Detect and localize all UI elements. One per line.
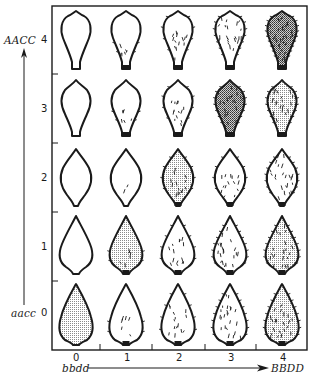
leaf-r4-c1: [111, 11, 140, 69]
y-tick-4: 4: [41, 35, 47, 45]
leaf-base: [227, 132, 234, 136]
leaf-r0-c0: [59, 284, 92, 345]
leaf-r4-c4: [265, 11, 299, 69]
leaf-r0-c4: [263, 284, 301, 345]
x-axis-left-label: bbdd: [62, 363, 90, 373]
leaf-r1-c0: [60, 216, 93, 274]
leaf-base: [227, 65, 234, 69]
leaf-blade: [213, 284, 246, 345]
leaf-r4-c3: [213, 11, 247, 69]
leaf-r3-c4: [265, 80, 299, 136]
y-axis-arrow: [21, 48, 27, 305]
leaf-base: [175, 132, 182, 136]
x-tick-3: 3: [228, 353, 234, 363]
leaf-blade: [59, 284, 92, 345]
leaf-r4-c0: [61, 11, 90, 69]
leaf-blade: [111, 11, 140, 69]
y-tick-2: 2: [41, 173, 47, 183]
y-axis-top-label: AACC: [4, 35, 36, 45]
leaf-r1-c2: [160, 216, 197, 274]
leaf-r2-c4: [265, 149, 300, 206]
leaf-r4-c2: [161, 11, 195, 69]
y-tick-1: 1: [41, 242, 47, 252]
leaf-base: [175, 65, 182, 69]
leaf-blade: [215, 11, 244, 69]
x-tick-2: 2: [176, 353, 182, 363]
leaf-blade: [163, 11, 192, 69]
diagram-canvas: [0, 0, 314, 378]
leaf-base: [279, 132, 286, 136]
leaf-base: [227, 202, 234, 206]
x-axis-right-label: BBDD: [271, 363, 304, 373]
leaf-r3-c1: [111, 80, 140, 136]
leaf-base: [227, 341, 234, 345]
leaf-base: [175, 341, 182, 345]
leaf-base: [227, 270, 234, 274]
leaf-base: [279, 202, 286, 206]
leaf-blade: [61, 149, 91, 206]
y-axis-bottom-label: aacc: [11, 308, 36, 318]
leaf-r2-c1: [111, 149, 141, 206]
leaf-base: [175, 270, 182, 274]
leaf-blade: [161, 284, 194, 345]
leaf-blade: [109, 284, 142, 345]
leaf-genotype-diagram: AACC aacc 4 3 2 1 0 0 1 2 3 4 bbdd BBDD: [0, 0, 314, 378]
leaf-r2-c0: [61, 149, 91, 206]
x-axis-arrow: [88, 365, 269, 372]
row-ticks: [52, 74, 58, 281]
leaf-blade: [216, 80, 245, 136]
leaf-r0-c1: [107, 284, 145, 345]
x-tick-1: 1: [124, 353, 130, 363]
leaf-r3-c0: [62, 80, 91, 136]
leaf-base: [175, 202, 182, 206]
leaf-r1-c3: [211, 216, 248, 274]
leaf-r2-c2: [160, 149, 195, 206]
y-tick-3: 3: [41, 104, 47, 114]
leaf-base: [123, 270, 130, 274]
leaf-base: [123, 341, 130, 345]
leaf-r3-c2: [162, 80, 195, 136]
leaf-blade: [215, 149, 245, 206]
y-tick-0: 0: [41, 308, 47, 318]
leaf-blade: [60, 216, 93, 274]
leaf-r2-c3: [212, 149, 247, 206]
leaf-base: [279, 341, 286, 345]
leaf-blade: [266, 216, 299, 274]
leaf-r1-c1: [107, 216, 144, 274]
leaf-r3-c3: [213, 80, 247, 136]
leaf-base: [123, 65, 130, 69]
leaf-blade: [164, 80, 193, 136]
leaf-base: [279, 270, 286, 274]
leaf-base: [279, 65, 286, 69]
leaf-blade: [62, 80, 91, 136]
leaf-blade: [267, 149, 297, 206]
leaf-blade: [163, 149, 193, 206]
leaf-base: [123, 132, 130, 136]
leaf-blade: [112, 80, 141, 136]
leaf-blade: [110, 216, 143, 274]
leaf-r0-c2: [159, 284, 197, 345]
leaf-r0-c3: [211, 284, 249, 345]
leaf-blade: [111, 149, 141, 206]
leaf-blade: [61, 11, 90, 69]
leaf-grid: [59, 11, 301, 345]
leaf-r1-c4: [263, 216, 300, 274]
